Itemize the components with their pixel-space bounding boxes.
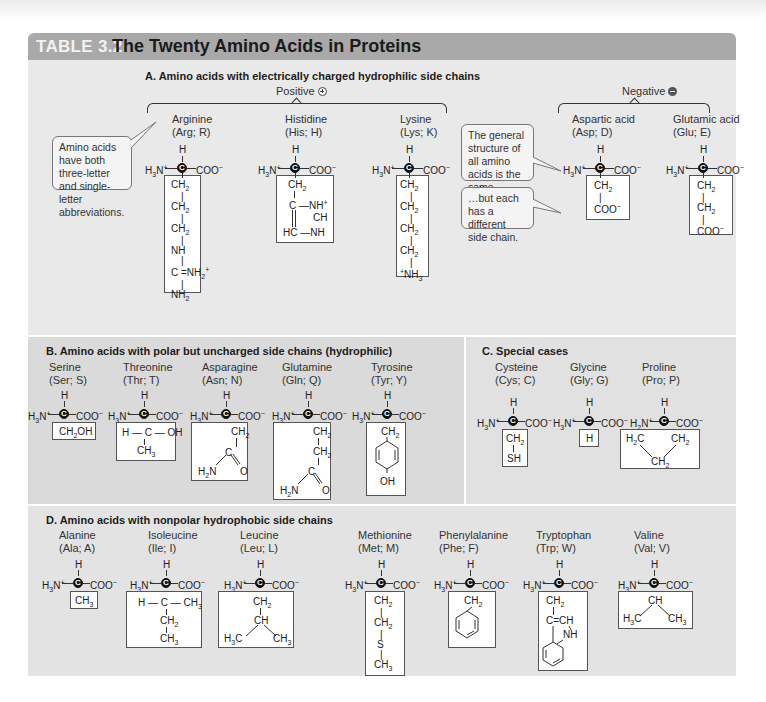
callout-pointer: [533, 197, 563, 217]
table-header: TABLE 3.2 The Twenty Amino Acids in Prot…: [28, 33, 736, 60]
indole-ring-icon: [541, 624, 581, 668]
table-title: The Twenty Amino Acids in Proteins: [112, 36, 421, 57]
alpha-carbon-icon: [177, 163, 187, 173]
alpha-carbon-icon: [659, 416, 669, 426]
alpha-carbon-icon: [698, 163, 708, 173]
table-number: TABLE 3.2: [36, 37, 122, 57]
callout-abbreviations: Amino acids have both three-letter and s…: [52, 136, 132, 190]
alpha-carbon-icon: [290, 163, 300, 173]
callout-pointer: [131, 122, 161, 152]
positive-label: Positive: [276, 85, 327, 97]
positive-brace: [147, 103, 447, 113]
alpha-carbon-icon: [73, 578, 83, 588]
alpha-carbon-icon: [382, 409, 392, 419]
section-c-heading: C. Special cases: [482, 345, 568, 357]
alpha-carbon-icon: [595, 163, 605, 173]
alpha-carbon-icon: [554, 578, 564, 588]
negative-label: Negative: [622, 85, 677, 97]
alpha-carbon-icon: [303, 409, 313, 419]
top-fade: [0, 0, 766, 22]
callout-pointer: [533, 157, 563, 177]
panel-polar: B. Amino acids with polar but uncharged …: [28, 337, 464, 504]
section-b-heading: B. Amino acids with polar but uncharged …: [46, 345, 392, 357]
negative-brace: [558, 103, 710, 113]
benzene-ring-icon: [372, 438, 402, 478]
alpha-carbon-icon: [404, 163, 414, 173]
alpha-carbon-icon: [221, 409, 231, 419]
section-a-heading: A. Amino acids with electrically charged…: [145, 70, 480, 82]
alpha-carbon-icon: [584, 416, 594, 426]
alpha-carbon-icon: [59, 409, 69, 419]
alpha-carbon-icon: [508, 416, 518, 426]
panel-nonpolar: D. Amino acids with nonpolar hydrophobic…: [28, 506, 736, 676]
alpha-carbon-icon: [255, 578, 265, 588]
callout-general-structure: The general structure of all amino acids…: [461, 124, 534, 181]
minus-circle-icon: [668, 87, 677, 96]
benzene-ring-icon: [452, 607, 482, 641]
callout-side-chain: …but each has a different side chain.: [461, 187, 534, 229]
alpha-carbon-icon: [139, 409, 149, 419]
alpha-carbon-icon: [161, 578, 171, 588]
alpha-carbon-icon: [465, 578, 475, 588]
panel-charged: A. Amino acids with electrically charged…: [28, 60, 736, 335]
alpha-carbon-icon: [649, 578, 659, 588]
panel-special: C. Special cases Cysteine(Cys; C) Glycin…: [466, 337, 736, 504]
amino-acid-table: TABLE 3.2 The Twenty Amino Acids in Prot…: [28, 33, 736, 676]
plus-circle-icon: [318, 87, 327, 96]
alpha-carbon-icon: [376, 578, 386, 588]
section-d-heading: D. Amino acids with nonpolar hydrophobic…: [46, 514, 333, 526]
